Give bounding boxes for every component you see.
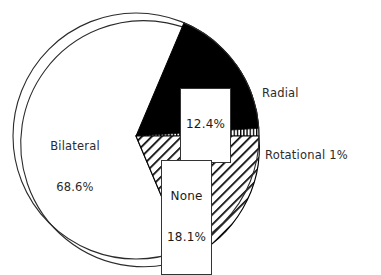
slice-label-bilateral-value: 68.6% bbox=[33, 181, 117, 195]
slice-label-radial-name: Radial bbox=[262, 87, 299, 101]
slice-label-rotational: Rotational 1% bbox=[265, 122, 348, 190]
slice-value-none: 18.1% bbox=[167, 231, 206, 245]
slice-value-radial: 12.4% bbox=[186, 118, 225, 132]
slice-label-none-name: None bbox=[167, 190, 206, 204]
slice-label-bilateral: Bilateral 68.6% bbox=[33, 113, 117, 221]
slice-label-radial: Radial bbox=[262, 60, 299, 128]
slice-value-box-none: None 18.1% bbox=[161, 160, 212, 275]
slice-value-box-radial: 12.4% bbox=[180, 88, 231, 163]
slice-label-bilateral-name: Bilateral bbox=[33, 140, 117, 154]
slice-label-rotational-text: Rotational 1% bbox=[265, 149, 348, 163]
